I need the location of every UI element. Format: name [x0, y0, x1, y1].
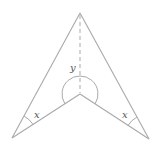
edge-right-tip-inner-vertex [80, 94, 149, 139]
edge-apex-left-tip [12, 13, 80, 138]
label-x-right: x [122, 109, 128, 120]
label-x-left: x [34, 109, 40, 120]
edge-left-tip-inner-vertex [12, 94, 80, 138]
label-y: y [69, 62, 76, 73]
angle-arc-x-right [128, 117, 137, 125]
arrowhead-diagram: y x x [0, 0, 159, 153]
angle-arc-x-left [24, 116, 33, 124]
edge-apex-right-tip [80, 13, 149, 139]
